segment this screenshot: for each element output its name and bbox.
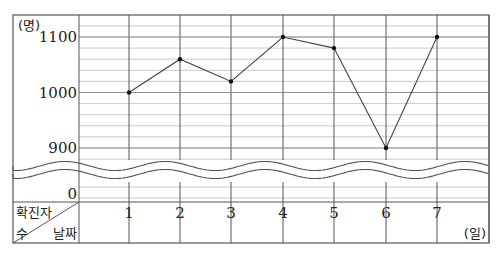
data-point <box>281 35 285 39</box>
x-tick-labels: 1234567 <box>124 204 442 222</box>
data-point <box>435 35 439 39</box>
data-point <box>178 57 182 61</box>
major-grid-lines <box>79 37 489 148</box>
x-tick-label: 7 <box>432 204 442 222</box>
y-tick-1100: 1100 <box>39 28 77 46</box>
data-point <box>127 90 131 94</box>
data-point <box>229 79 233 83</box>
data-point <box>332 46 336 50</box>
x-tick-label: 3 <box>226 204 236 222</box>
x-tick-label: 5 <box>329 204 339 222</box>
chart-frame <box>13 15 489 243</box>
y-tick-900: 900 <box>48 139 77 157</box>
x-tick-label: 4 <box>278 204 288 222</box>
corner-label-bottom-right: 날짜 <box>53 226 77 241</box>
y-unit-label: (명) <box>18 18 40 33</box>
y-tick-1000: 1000 <box>39 84 77 102</box>
line-chart: (명) 1100 1000 900 0 확진자 수 날짜 1234567 (일) <box>0 0 503 257</box>
data-point <box>384 146 388 150</box>
x-tick-label: 6 <box>381 204 391 222</box>
y-tick-0: 0 <box>67 185 77 203</box>
corner-label-bottom-left: 수 <box>16 226 28 241</box>
corner-label-top: 확진자 <box>16 205 52 220</box>
x-tick-label: 1 <box>124 204 134 222</box>
x-unit-label: (일) <box>464 226 486 241</box>
x-tick-label: 2 <box>175 204 185 222</box>
axis-break-wave <box>13 160 489 182</box>
